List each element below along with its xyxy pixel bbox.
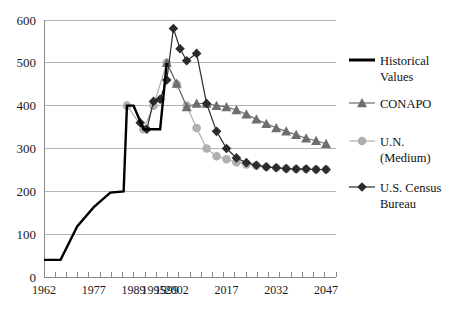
y-axis-tick-label: 100 [17, 227, 37, 242]
x-axis-tick-label: 2002 [165, 283, 189, 297]
marker-circle [358, 137, 367, 146]
legend-entry[interactable]: U.S. CensusBureau [349, 181, 442, 211]
marker-diamond [291, 164, 301, 174]
series-u-s-census-bureau [135, 24, 330, 175]
legend-entry[interactable]: CONAPO [349, 97, 431, 111]
marker-triangle [291, 130, 301, 139]
legend-label-line2: (Medium) [380, 151, 431, 165]
legend-label: Historical [380, 54, 430, 68]
legend-entry[interactable]: HistoricalValues [349, 54, 430, 84]
line-chart: 0100200300400500600196219771989199519992… [0, 0, 453, 309]
legend-label: CONAPO [380, 97, 431, 111]
marker-diamond [321, 165, 331, 175]
marker-diamond [281, 164, 291, 174]
x-axis-tick-label: 1962 [32, 283, 56, 297]
y-axis-tick-label: 500 [17, 55, 37, 70]
marker-triangle [271, 123, 281, 132]
marker-triangle [261, 119, 271, 128]
marker-diamond [271, 163, 281, 173]
marker-diamond [357, 182, 367, 192]
series-line [167, 63, 326, 144]
series-line [127, 63, 326, 170]
legend-label: U.S. Census [380, 181, 442, 195]
marker-circle [212, 152, 221, 161]
x-axis-tick-label: 1977 [82, 283, 106, 297]
series-conapo [162, 58, 331, 148]
y-axis-tick-label: 600 [17, 13, 37, 28]
x-axis-tick-label: 2047 [314, 283, 338, 297]
legend-entry[interactable]: U.N.(Medium) [349, 135, 431, 165]
series-u-n-medium [123, 59, 331, 174]
x-axis-tick-label: 2017 [215, 283, 239, 297]
marker-circle [202, 144, 211, 153]
marker-triangle [321, 139, 331, 148]
marker-diamond [192, 49, 202, 59]
marker-diamond [301, 164, 311, 174]
y-axis-tick-label: 200 [17, 184, 37, 199]
marker-triangle [301, 133, 311, 142]
marker-circle [192, 124, 201, 133]
series-historical-values [44, 63, 167, 260]
marker-triangle [281, 126, 291, 135]
marker-diamond [175, 44, 185, 54]
marker-circle [222, 155, 231, 164]
marker-diamond [252, 160, 262, 170]
chart-container: 0100200300400500600196219771989199519992… [0, 0, 453, 309]
marker-diamond [162, 75, 172, 85]
marker-diamond [212, 127, 222, 137]
y-axis-tick-label: 400 [17, 98, 37, 113]
marker-diamond [182, 56, 192, 66]
marker-triangle [241, 109, 251, 118]
legend-label-line2: Values [380, 70, 413, 84]
marker-diamond [169, 24, 179, 34]
marker-triangle [231, 105, 241, 114]
y-axis-tick-label: 300 [17, 141, 37, 156]
x-axis-tick-label: 2032 [264, 283, 288, 297]
marker-triangle [251, 114, 261, 123]
legend-label-line2: Bureau [380, 197, 417, 211]
series-line [44, 63, 167, 260]
marker-diamond [311, 165, 321, 175]
marker-diamond [262, 162, 272, 172]
legend-label: U.N. [380, 135, 404, 149]
